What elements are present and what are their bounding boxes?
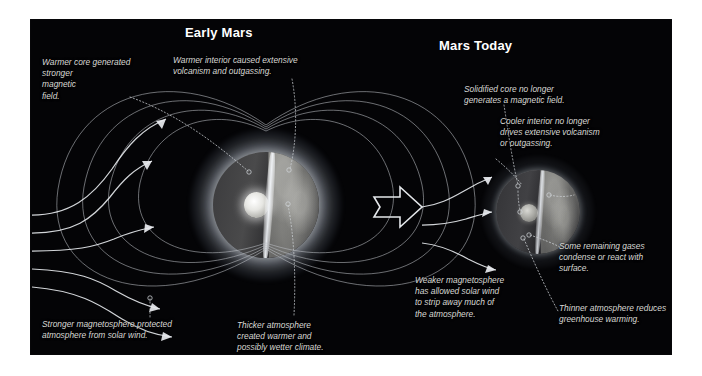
mars-today-solidified-core: [520, 204, 538, 222]
callout-stronger-magnetosphere: Stronger magnetosphere protected atmosph…: [42, 319, 217, 341]
panel-title-early-mars: Early Mars: [185, 25, 253, 40]
diagram-canvas: Early Mars Mars Today Warmer core genera…: [0, 0, 702, 376]
early-mars-solar-wind-streams: [32, 119, 172, 341]
callout-thicker-atmosphere: Thicker atmosphere created warmer and po…: [237, 320, 359, 354]
early-mars-planet: [213, 152, 319, 258]
transition-arrow-icon: [374, 187, 422, 227]
callout-cooler-interior: Cooler interior no longer drives extensi…: [500, 116, 646, 150]
callout-warmer-core: Warmer core generated stronger magnetic …: [42, 57, 162, 102]
callout-solidified-core: Solidified core no longer generates a ma…: [464, 84, 610, 106]
diagram-panel: Early Mars Mars Today Warmer core genera…: [30, 19, 672, 355]
callout-remaining-gases: Some remaining gases condense or react w…: [559, 241, 672, 275]
callout-weaker-magnetosphere: Weaker magnetosphere has allowed solar w…: [415, 275, 533, 320]
panel-title-mars-today: Mars Today: [439, 38, 512, 53]
callout-thinner-atmosphere: Thinner atmosphere reduces greenhouse wa…: [559, 303, 672, 325]
callout-warmer-interior: Warmer interior caused extensive volcani…: [173, 55, 319, 77]
